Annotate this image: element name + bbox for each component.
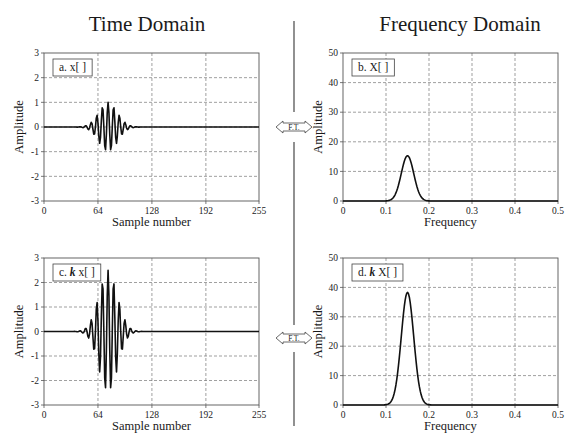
signal-curve — [44, 102, 259, 149]
x-tick-label: 0.1 — [380, 206, 392, 216]
legend: a. x[ ] — [53, 59, 92, 76]
legend-prefix: c. — [59, 266, 70, 278]
y-tick-label: 0 — [333, 400, 338, 410]
x-tick-label: 255 — [252, 206, 267, 216]
legend: d. k X[ ] — [352, 264, 403, 281]
x-tick-label: 0.1 — [380, 410, 392, 420]
figure: F.T. F.T. 064128192255-3-2-10123Sample n… — [0, 0, 580, 446]
y-tick-label: -3 — [31, 400, 39, 410]
ft-label: F.T. — [288, 123, 299, 132]
legend-symbol: x[ ] — [78, 266, 94, 278]
x-tick-label: 0.5 — [552, 206, 564, 216]
y-tick-label: 1 — [34, 98, 39, 108]
x-tick-label: 192 — [199, 206, 214, 216]
y-tick-label: 1 — [34, 302, 39, 312]
x-tick-label: 0 — [341, 410, 346, 420]
x-tick-label: 0.4 — [509, 206, 521, 216]
signal-curve — [343, 156, 558, 201]
y-tick-label: 10 — [329, 167, 339, 177]
y-axis-label: Amplitude — [311, 304, 325, 358]
y-tick-label: 30 — [329, 312, 339, 322]
legend-label: b. X[ ] — [358, 61, 388, 73]
ft-label: F.T. — [288, 334, 299, 343]
y-tick-label: 30 — [329, 107, 339, 117]
y-tick-label: 0 — [333, 196, 338, 206]
ft-arrow-top: F.T. — [276, 121, 312, 133]
x-axis-label: Frequency — [424, 215, 478, 229]
y-tick-label: 20 — [329, 137, 339, 147]
y-axis-label: Amplitude — [311, 100, 325, 154]
x-tick-label: 0.4 — [509, 410, 521, 420]
legend-prefix: d. — [358, 266, 370, 278]
legend-k: k — [370, 266, 379, 278]
y-tick-label: -2 — [31, 376, 39, 386]
x-axis-label: Frequency — [424, 419, 478, 433]
legend-label: a. x[ ] — [59, 61, 86, 73]
y-tick-label: 2 — [34, 73, 39, 83]
y-tick-label: 2 — [34, 278, 39, 288]
y-tick-label: 0 — [34, 327, 39, 337]
legend: b. X[ ] — [352, 59, 394, 76]
x-axis-label: Sample number — [112, 419, 192, 433]
y-tick-label: -1 — [31, 351, 39, 361]
y-tick-label: 3 — [34, 48, 39, 58]
y-tick-label: 40 — [329, 78, 339, 88]
x-axis-label: Sample number — [112, 215, 192, 229]
legend-symbol: X[ ] — [378, 266, 397, 278]
x-tick-label: 255 — [252, 410, 267, 420]
plot-b-spectrum: 00.10.20.30.40.501020304050FrequencyAmpl… — [311, 48, 564, 229]
signal-curve — [44, 270, 259, 387]
y-tick-label: 50 — [329, 48, 339, 58]
ft-arrow-bottom: F.T. — [276, 332, 312, 344]
y-tick-label: 20 — [329, 341, 339, 351]
x-tick-label: 64 — [93, 410, 103, 420]
x-tick-label: 0.5 — [552, 410, 564, 420]
y-axis-label: Amplitude — [12, 304, 26, 358]
legend-label: c. k x[ ] — [59, 266, 95, 278]
x-tick-label: 0 — [42, 410, 47, 420]
y-tick-label: -2 — [31, 172, 39, 182]
y-tick-label: -3 — [31, 196, 39, 206]
x-tick-label: 0 — [341, 206, 346, 216]
y-axis-label: Amplitude — [12, 100, 26, 154]
y-tick-label: 3 — [34, 253, 39, 263]
plot-a-time-signal: 064128192255-3-2-10123Sample numberAmpli… — [12, 48, 266, 229]
legend-label: d. k X[ ] — [358, 266, 397, 278]
signal-curve — [343, 292, 558, 405]
legend: c. k x[ ] — [53, 264, 101, 281]
plot-c-scaled-time-signal: 064128192255-3-2-10123Sample numberAmpli… — [12, 253, 266, 433]
y-tick-label: 10 — [329, 371, 339, 381]
y-tick-label: 40 — [329, 283, 339, 293]
y-tick-label: 50 — [329, 253, 339, 263]
plot-d-scaled-spectrum: 00.10.20.30.40.501020304050FrequencyAmpl… — [311, 253, 564, 433]
y-tick-label: 0 — [34, 122, 39, 132]
x-tick-label: 64 — [93, 206, 103, 216]
y-tick-label: -1 — [31, 147, 39, 157]
legend-k: k — [70, 266, 79, 278]
x-tick-label: 0 — [42, 206, 47, 216]
x-tick-label: 192 — [199, 410, 214, 420]
